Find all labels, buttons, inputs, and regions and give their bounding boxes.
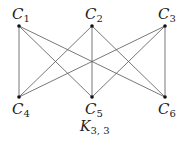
label-c5: C5 (85, 100, 103, 119)
node-c1 (17, 24, 21, 28)
label-c3: C3 (158, 5, 176, 24)
label-c1: C1 (12, 5, 30, 24)
label-c4: C4 (12, 100, 30, 119)
graph-caption: K3, 3 (79, 118, 110, 136)
node-c3 (163, 24, 167, 28)
k33-graph-diagram: C1C2C3C4C5C6 K3, 3 (0, 0, 182, 142)
label-c2: C2 (85, 5, 103, 24)
edges-group (19, 26, 165, 97)
node-c5 (90, 95, 94, 99)
node-c6 (163, 95, 167, 99)
node-c2 (90, 24, 94, 28)
node-c4 (17, 95, 21, 99)
label-c6: C6 (158, 100, 176, 119)
caption-subscript: 3, 3 (90, 125, 109, 136)
